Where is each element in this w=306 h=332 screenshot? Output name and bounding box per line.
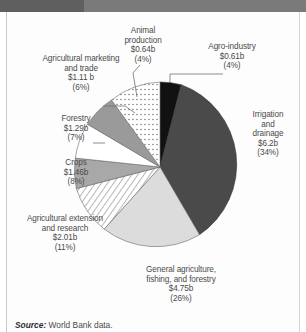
pie-label-marketing-line2: and trade <box>25 64 137 74</box>
pie-label-forestry-line1: Forestry <box>39 114 113 124</box>
pie-label-irrigation-and-drainage: Irrigation and drainage $6.2b (34%) <box>235 110 301 158</box>
pie-label-irrigation-line2: and <box>235 120 301 130</box>
pie-label-forestry: Forestry $1.29b (7%) <box>39 114 113 143</box>
source-text: World Bank data. <box>46 320 112 330</box>
pie-label-marketing-line1: Agricultural marketing <box>25 54 137 64</box>
figure-page: Animal production $0.64b (4%) Agro-indus… <box>6 12 300 332</box>
pie-label-agricultural-extension-and-research: Agricultural extension and research $2.0… <box>3 214 127 252</box>
scan-edge-segment-right <box>84 0 306 12</box>
pie-label-marketing-value: $1.11 b <box>25 73 137 83</box>
pie-label-crops: Crops $1.46b (8%) <box>41 158 111 187</box>
pie-label-marketing-percent: (6%) <box>25 83 137 93</box>
pie-label-irrigation-line1: Irrigation <box>235 110 301 120</box>
pie-label-crops-value: $1.46b <box>41 168 111 178</box>
pie-label-crops-line1: Crops <box>41 158 111 168</box>
pie-label-extension-percent: (11%) <box>3 243 127 253</box>
pie-label-agro-industry-line1: Agro-industry <box>189 42 275 52</box>
pie-label-animal-production-line2: production <box>105 36 181 46</box>
pie-label-forestry-percent: (7%) <box>39 133 113 143</box>
pie-label-forestry-value: $1.29b <box>39 124 113 134</box>
pie-label-animal-production-line1: Animal <box>105 26 181 36</box>
pie-label-extension-line1: Agricultural extension <box>3 214 127 224</box>
source-note: Source: World Bank data. <box>15 320 113 330</box>
pie-label-agricultural-marketing-and-trade: Agricultural marketing and trade $1.11 b… <box>25 54 137 92</box>
pie-label-general-line2: fishing, and forestry <box>115 275 247 285</box>
pie-label-irrigation-line3: drainage <box>235 129 301 139</box>
pie-label-irrigation-value: $6.2b <box>235 139 301 149</box>
pie-label-agro-industry-percent: (4%) <box>189 61 275 71</box>
pie-label-general-value: $4.75b <box>115 284 247 294</box>
pie-label-general-line1: General agriculture, <box>115 265 247 275</box>
pie-label-extension-line2: and research <box>3 224 127 234</box>
pie-label-agro-industry-value: $0.61b <box>189 52 275 62</box>
pie-chart-figure: Animal production $0.64b (4%) Agro-indus… <box>7 12 301 304</box>
pie-label-general-percent: (26%) <box>115 294 247 304</box>
scan-edge-artifact <box>0 0 306 12</box>
pie-label-crops-percent: (8%) <box>41 177 111 187</box>
pie-label-general-agriculture-fishing-and-forestry: General agriculture, fishing, and forest… <box>115 265 247 303</box>
leader-line-agro-industry <box>170 74 223 83</box>
source-label: Source: <box>15 320 46 330</box>
pie-label-agro-industry: Agro-industry $0.61b (4%) <box>189 42 275 71</box>
pie-label-extension-value: $2.01b <box>3 233 127 243</box>
scan-edge-segment-left <box>0 0 84 12</box>
pie-label-irrigation-percent: (34%) <box>235 148 301 158</box>
